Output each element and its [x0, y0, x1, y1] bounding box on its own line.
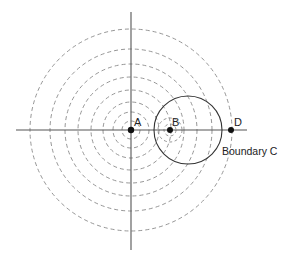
label-b: B — [172, 116, 179, 128]
label-boundary-c: Boundary C — [222, 145, 278, 157]
label-d: D — [234, 116, 242, 128]
label-a: A — [134, 116, 142, 128]
field-diagram: A B D Boundary C — [0, 0, 287, 262]
